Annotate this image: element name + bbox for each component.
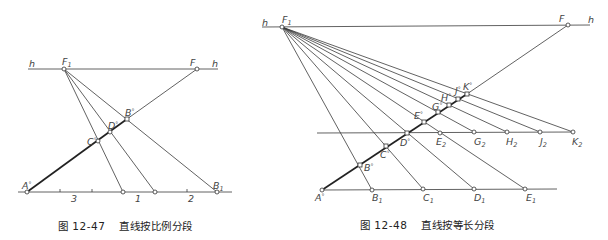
point-h2 — [505, 130, 509, 134]
label-b: B° — [125, 107, 135, 118]
label-d: D° — [400, 137, 410, 148]
point-j — [456, 97, 460, 101]
label-b: B° — [364, 162, 374, 173]
label-k2: K2 — [572, 136, 582, 149]
label-h: H° — [441, 92, 451, 103]
label-k: K° — [463, 81, 472, 92]
label-h-right: h — [588, 14, 594, 25]
caption-title: 直线按等长分段 — [421, 219, 495, 231]
point-j2 — [538, 130, 542, 134]
label-b1: B1 — [372, 192, 383, 205]
label-c: C° — [380, 149, 390, 160]
point-d — [405, 131, 409, 135]
label-h-right: h — [212, 58, 218, 69]
ratio-label-1: 1 — [135, 193, 141, 204]
label-j: J° — [453, 85, 461, 96]
label-g2: G2 — [474, 136, 486, 149]
ray-f1-h2 — [282, 27, 507, 132]
label-c1: C1 — [423, 192, 434, 205]
label-h-left: h — [262, 17, 268, 28]
caption-title: 直线按比例分段 — [119, 220, 193, 232]
ray-f1-k2 — [282, 27, 573, 132]
ratio-label-3: 3 — [71, 193, 77, 204]
label-e2: E2 — [436, 136, 446, 149]
point-e — [422, 120, 426, 124]
ray-f1-c1 — [282, 27, 423, 189]
point-d1 — [472, 187, 476, 191]
ray-f1-b1 — [64, 69, 217, 192]
horizon-line-h — [262, 25, 590, 27]
point-k — [465, 92, 469, 96]
caption-number: 图 12-48 — [360, 219, 407, 231]
line-b-to-f — [127, 69, 197, 119]
figure-12-47: h h F1 F A° B° D° C° B1 3 1 2 — [18, 56, 232, 204]
point-e2 — [438, 131, 442, 135]
label-f: F — [559, 13, 565, 24]
diagram-canvas: h h F1 F A° B° D° C° B1 3 1 2 — [0, 0, 608, 240]
label-a: A° — [314, 192, 325, 203]
middle-line — [317, 132, 575, 133]
label-e1: E1 — [526, 192, 536, 205]
point-h — [447, 103, 451, 107]
label-h-left: h — [29, 58, 35, 69]
point-c — [384, 144, 388, 148]
point-f — [566, 23, 570, 27]
caption-12-48: 图 12-48直线按等长分段 — [360, 217, 495, 232]
point-c1 — [421, 187, 425, 191]
ray-f1-e1 — [282, 27, 525, 189]
label-j2: J2 — [538, 136, 547, 149]
point-f1 — [280, 25, 284, 29]
label-h2: H2 — [506, 136, 517, 149]
caption-number: 图 12-47 — [58, 220, 105, 232]
ratio-label-2: 2 — [188, 193, 194, 204]
point-f1 — [62, 67, 66, 71]
point-k2 — [571, 130, 575, 134]
label-e: E° — [414, 110, 423, 121]
ray-f1-j2 — [282, 27, 540, 132]
point-e1 — [523, 187, 527, 191]
label-f: F — [190, 57, 196, 68]
point-b — [358, 163, 362, 167]
caption-12-47: 图 12-47直线按比例分段 — [58, 218, 193, 233]
label-c: C° — [87, 136, 97, 147]
base-line — [322, 189, 557, 190]
point-g2 — [472, 130, 476, 134]
figure-12-48: h h F1 F A° B° C° D° E° G° H° J° K° B1 C… — [262, 13, 594, 205]
point-div-1 — [121, 190, 125, 194]
point-f — [195, 67, 199, 71]
label-f1: F1 — [282, 14, 292, 27]
point-div-2 — [153, 190, 157, 194]
label-d: D° — [108, 120, 118, 131]
line-k-to-f — [467, 25, 568, 94]
label-d1: D1 — [474, 192, 485, 205]
